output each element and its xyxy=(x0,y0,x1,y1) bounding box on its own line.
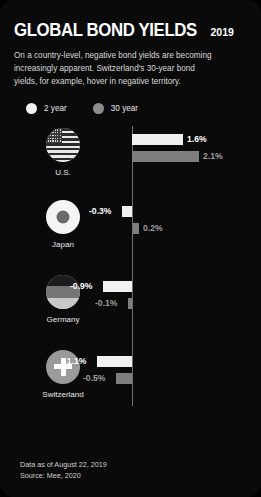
bar-us-30-year[interactable] xyxy=(132,151,199,162)
value-us-2-year: 1.6% xyxy=(187,134,207,145)
chart-row-germany: Germany -0.9% -0.1% xyxy=(14,271,247,343)
legend-item-2-year[interactable]: 2 year xyxy=(26,103,67,114)
bar-switzerland-30-year[interactable] xyxy=(116,373,132,384)
infographic-card: GLOBAL BOND YIELDS 2019 On a country-lev… xyxy=(0,0,261,497)
header: GLOBAL BOND YIELDS 2019 xyxy=(14,20,247,41)
chart-row-switzerland: Switzerland -1.1% -0.5% xyxy=(14,346,247,418)
value-us-30-year: 2.1% xyxy=(203,151,223,162)
legend-label-30-year: 30 year xyxy=(111,104,138,113)
legend-dot-gray-icon xyxy=(93,103,104,114)
value-japan-30-year: 0.2% xyxy=(143,223,163,234)
footer-source-line: Source: Mee, 2020 xyxy=(20,470,107,481)
page-title: GLOBAL BOND YIELDS xyxy=(14,20,197,41)
bar-germany-2-year[interactable] xyxy=(103,281,132,292)
legend-label-2-year: 2 year xyxy=(44,104,67,113)
legend-dot-white-icon xyxy=(26,103,37,114)
chart-row-japan: Japan -0.3% 0.2% xyxy=(14,196,247,268)
title-year: 2019 xyxy=(211,26,234,38)
bar-japan-30-year[interactable] xyxy=(133,223,139,234)
bar-japan-2-year[interactable] xyxy=(122,206,132,217)
footer-data-date: Data as of August 22, 2019 xyxy=(20,459,107,470)
bar-germany-30-year[interactable] xyxy=(128,298,132,309)
chart-row-us: U.S. 1.6% 2.1% xyxy=(14,124,247,196)
value-germany-30-year: -0.1% xyxy=(95,298,117,309)
value-germany-2-year: -0.9% xyxy=(70,281,92,292)
value-japan-2-year: -0.3% xyxy=(89,206,111,217)
bar-us-2-year[interactable] xyxy=(132,134,183,145)
chart-legend: 2 year 30 year xyxy=(14,103,247,114)
bar-switzerland-2-year[interactable] xyxy=(97,356,132,367)
bar-chart: U.S. 1.6% 2.1% Japan xyxy=(14,124,247,412)
description-text: On a country-level, negative bond yields… xyxy=(14,50,219,89)
value-switzerland-2-year: -1.1% xyxy=(64,356,86,367)
value-switzerland-30-year: -0.5% xyxy=(83,373,105,384)
footer-source: Data as of August 22, 2019 Source: Mee, … xyxy=(20,459,107,481)
legend-item-30-year[interactable]: 30 year xyxy=(93,103,138,114)
